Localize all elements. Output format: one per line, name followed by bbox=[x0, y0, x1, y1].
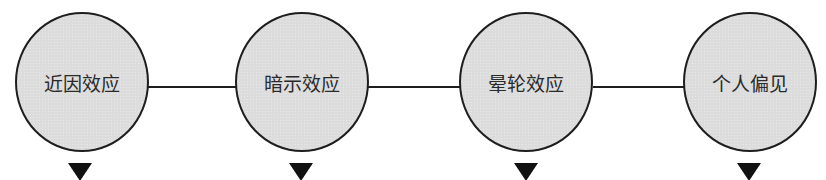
down-arrow-icon bbox=[514, 163, 538, 180]
node-recency-effect: 近因效应 bbox=[15, 12, 149, 152]
connector-3-4 bbox=[593, 86, 684, 88]
node-label: 个人偏见 bbox=[712, 69, 788, 96]
down-arrow-icon bbox=[68, 163, 92, 180]
node-suggestion-effect: 暗示效应 bbox=[235, 12, 369, 152]
node-halo-effect: 晕轮效应 bbox=[459, 12, 593, 152]
down-arrow-icon bbox=[289, 163, 313, 180]
connector-2-3 bbox=[368, 86, 460, 88]
node-label: 近因效应 bbox=[44, 69, 120, 96]
node-label: 晕轮效应 bbox=[488, 69, 564, 96]
down-arrow-icon bbox=[737, 163, 761, 180]
node-personal-bias: 个人偏见 bbox=[683, 12, 817, 152]
connector-1-2 bbox=[148, 86, 236, 88]
node-label: 暗示效应 bbox=[264, 69, 340, 96]
